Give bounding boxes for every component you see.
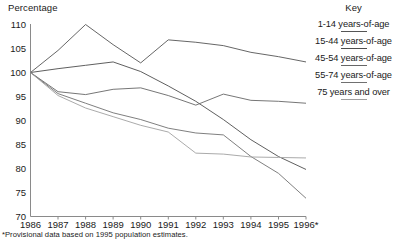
y-axis-tick-label: 75 — [15, 187, 26, 198]
legend-entry-15-44: 15-44 years-of-age — [300, 36, 407, 49]
x-axis-tick-label: 1987 — [47, 219, 68, 230]
y-axis-tick-label: 90 — [15, 115, 26, 126]
x-axis-tick-label: 1988 — [75, 219, 96, 230]
chart-container: Percentage 110105100959085807570 1986198… — [0, 0, 407, 245]
y-axis-tick-label: 105 — [10, 43, 26, 54]
x-axis-tick-label: 1996* — [294, 219, 319, 230]
legend-label: 55-74 years-of-age — [300, 70, 407, 80]
x-axis-tick-label: 1995 — [268, 219, 289, 230]
legend-line-swatch-75-over — [341, 99, 367, 100]
legend-line-swatch-45-54 — [341, 65, 367, 66]
legend-label: 15-44 years-of-age — [300, 36, 407, 46]
x-axis-tick-label: 1989 — [103, 219, 124, 230]
series-line-55-74-years-of-age — [31, 73, 307, 199]
series-line-1-14-years-of-age — [31, 25, 307, 73]
legend-entry-1-14: 1-14 years-of-age — [300, 19, 407, 32]
y-axis-tick-label: 95 — [15, 91, 26, 102]
y-axis-tick-labels: 110105100959085807570 — [10, 19, 26, 222]
y-axis-tick-label: 80 — [15, 163, 26, 174]
legend-line-swatch-55-74 — [341, 82, 367, 83]
chart-footnote: *Provisional data based on 1995 populati… — [2, 230, 188, 239]
series-lines — [31, 25, 307, 199]
legend-entry-45-54: 45-54 years-of-age — [300, 53, 407, 66]
series-line-15-44-years-of-age — [31, 62, 307, 170]
x-axis-tick-label: 1992 — [185, 219, 206, 230]
legend-title: Key — [300, 2, 407, 13]
y-axis-tick-label: 100 — [10, 67, 26, 78]
legend-line-swatch-15-44 — [341, 48, 367, 49]
x-axis-tick-label: 1994 — [240, 219, 261, 230]
chart-legend: Key 1-14 years-of-age 15-44 years-of-age… — [300, 2, 407, 104]
legend-line-swatch-1-14 — [341, 31, 367, 32]
x-axis-tick-label: 1990 — [130, 219, 151, 230]
legend-entry-55-74: 55-74 years-of-age — [300, 70, 407, 83]
x-axis-tick-label: 1991 — [158, 219, 179, 230]
y-axis-tick-label: 110 — [11, 19, 26, 30]
series-line-75-years-and-over — [31, 73, 307, 158]
series-line-45-54-years-of-age — [31, 73, 307, 106]
legend-label: 75 years and over — [300, 87, 407, 97]
x-axis-tick-labels: 1986198719881989199019911992199319941995… — [20, 219, 319, 230]
legend-label: 45-54 years-of-age — [300, 53, 407, 63]
x-axis-tick-label: 1986 — [20, 219, 41, 230]
legend-entry-75-over: 75 years and over — [300, 87, 407, 100]
x-axis-tick-label: 1993 — [213, 219, 234, 230]
y-axis-tick-label: 85 — [15, 139, 26, 150]
legend-label: 1-14 years-of-age — [300, 19, 407, 29]
